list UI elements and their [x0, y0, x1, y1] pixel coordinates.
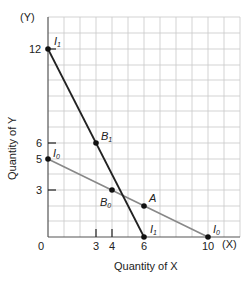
x-tick-10: 10: [202, 240, 214, 252]
x-tick-4: 4: [109, 240, 115, 252]
x-axis-symbol: (X): [222, 238, 237, 250]
x-tick-3: 3: [93, 240, 99, 252]
x-tick-6: 6: [141, 240, 147, 252]
y-axis-symbol: (Y): [20, 11, 35, 23]
i1-label-top: I1: [54, 35, 61, 48]
i0-label-left: I0: [53, 147, 60, 160]
y-tick-6: 6: [36, 137, 42, 149]
i1-label-bottom: I1: [150, 223, 157, 236]
y-tick-12: 12: [29, 43, 41, 55]
y-tick-5: 5: [36, 153, 42, 165]
y-tick-3: 3: [36, 184, 42, 196]
origin-label: 0: [38, 240, 44, 252]
point-a-label: A: [148, 192, 156, 204]
point-b1-label: B1: [101, 130, 112, 143]
point-b0-label: B0: [100, 196, 111, 209]
y-axis-label: Quantity of Y: [6, 116, 18, 180]
i0-label-right: I0: [213, 223, 220, 236]
budget-line-chart: (Y) (X) 12 6 5 3 0 3 4 6 10 Quantity of …: [0, 0, 251, 281]
x-axis-label: Quantity of X: [114, 260, 178, 272]
